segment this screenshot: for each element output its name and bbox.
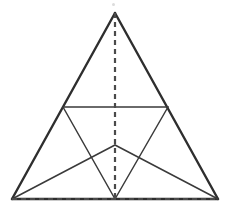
top-artifact-speck (112, 3, 115, 6)
left-mid-to-base-center (63, 107, 115, 199)
right-mid-to-base-center (115, 107, 168, 199)
geometric-figure (0, 0, 229, 213)
dashed-lines-group (12, 13, 218, 199)
triangle-diagram-svg (0, 0, 229, 213)
